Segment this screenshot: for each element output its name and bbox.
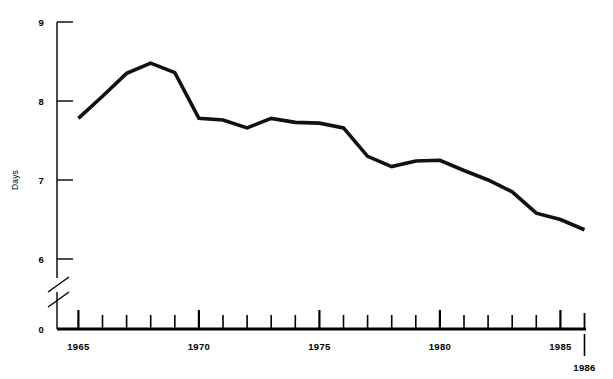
y-tick-label-6: 6 — [38, 254, 44, 265]
y-axis-title: Days — [10, 170, 20, 190]
axis-break-slash-lower — [48, 292, 69, 307]
x-tick-label-1985: 1985 — [549, 341, 572, 352]
y-tick-label-7: 7 — [38, 175, 44, 186]
x-tick-label-1986: 1986 — [573, 362, 595, 373]
x-tick-label-1970: 1970 — [188, 341, 210, 352]
line-chart: 9 8 7 6 0 Days — [0, 0, 613, 379]
data-series-days — [78, 63, 584, 230]
y-tick-label-0: 0 — [38, 324, 44, 335]
x-tick-label-1980: 1980 — [429, 341, 451, 352]
x-major-ticks-group — [78, 310, 584, 356]
axis-break-slash-upper — [48, 277, 69, 292]
y-tick-label-9: 9 — [38, 17, 44, 28]
x-tick-label-1965: 1965 — [67, 341, 90, 352]
x-tick-label-1975: 1975 — [308, 341, 331, 352]
y-tick-label-8: 8 — [38, 96, 44, 107]
chart-container: 9 8 7 6 0 Days — [0, 0, 613, 379]
